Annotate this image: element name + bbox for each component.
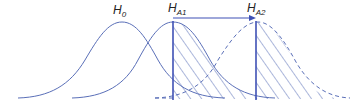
ha1-label-sub: A1 (177, 8, 187, 17)
h0-label: H0 (113, 4, 126, 19)
ha2-label-main: H (247, 1, 256, 15)
h0-label-sub: 0 (122, 10, 126, 19)
ha1-label: HA1 (168, 2, 186, 17)
ha1-label-main: H (168, 1, 177, 15)
ha2-label: HA2 (247, 2, 265, 17)
ha2-hatched-area (256, 20, 351, 100)
h0-label-main: H (113, 3, 122, 17)
ha2-label-sub: A2 (256, 8, 266, 17)
